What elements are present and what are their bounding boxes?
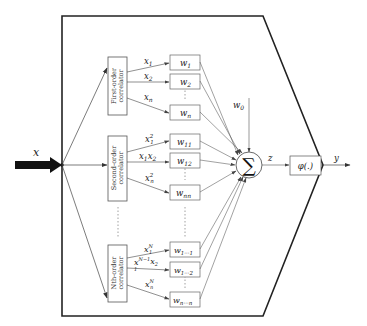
label-x1x2: x1x2 xyxy=(139,151,156,162)
label-xn-pow-N: xNn xyxy=(145,278,155,290)
label-x1-squared: x21 xyxy=(145,133,154,145)
fanout-first xyxy=(62,68,107,165)
svg-text:correlator: correlator xyxy=(117,69,125,103)
svg-text:∑: ∑ xyxy=(242,154,256,176)
weight-w12: w12 xyxy=(170,153,200,168)
svg-text:correlator: correlator xyxy=(117,256,125,290)
label-xn: xn xyxy=(144,92,153,103)
summation-node: ∑ xyxy=(236,152,262,178)
bias-label: w0 xyxy=(233,100,244,111)
label-x2: x2 xyxy=(144,71,153,82)
activation-function: φ(.) xyxy=(290,156,321,175)
weight-wn: wn xyxy=(170,105,200,120)
nth-order-correlator: Nth-order correlator xyxy=(108,245,127,302)
svg-text:correlator: correlator xyxy=(117,151,125,185)
weight-w2: w2 xyxy=(170,74,200,89)
sum-output-label: z xyxy=(267,153,273,163)
fanout-nth xyxy=(62,165,107,298)
svg-text:φ(.): φ(.) xyxy=(298,161,313,171)
second-order-correlator: Second-order correlator xyxy=(108,136,127,201)
first-order-correlator: First-order correlator xyxy=(108,57,127,115)
weight-w1-2: w1···2 xyxy=(170,262,200,277)
input-label: x xyxy=(33,146,40,159)
label-x1: x1 xyxy=(144,56,153,67)
weight-wn-n: wn···n xyxy=(170,292,200,307)
label-x1-pow-N-1-sub: 1 xyxy=(134,266,137,272)
weight-wnn: wnn xyxy=(170,185,200,200)
label-xn-squared: x2n xyxy=(145,172,154,184)
weight-w1: w1 xyxy=(170,55,200,70)
label-x1-pow-N-1-x2: xN−1x2 xyxy=(134,256,158,267)
weight-w1-1: w1···1 xyxy=(170,242,200,257)
higher-order-neuron-diagram: x First-order correlator Second-order co… xyxy=(0,0,367,326)
input-arrow xyxy=(15,157,62,173)
weight-to-sum-lines xyxy=(200,62,246,299)
output-label: y xyxy=(333,153,339,163)
weight-w11: w11 xyxy=(170,134,200,149)
